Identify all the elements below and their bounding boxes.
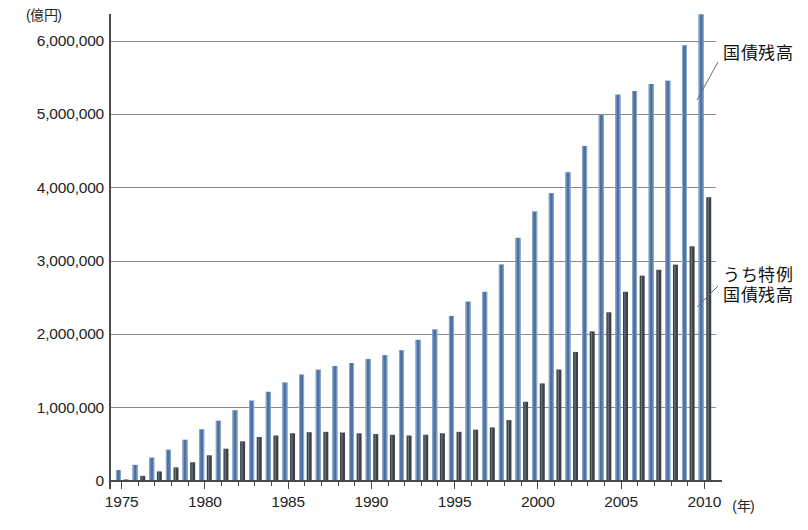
annotation-bond-total-text: 国債残高 [723,44,793,64]
x-tick-label-2005: 2005 [604,493,638,511]
bar-special-1977 [157,471,162,481]
y-tick-label-6000000: 6,000,000 [8,32,104,50]
x-tick-label-1980: 1980 [188,493,222,511]
annotation-bond-special: うち特例 国債残高 [723,266,793,306]
x-tick-label-1990: 1990 [355,493,389,511]
x-axis-unit-label: (年) [732,495,754,515]
y-tick-label-2000000: 2,000,000 [8,325,104,343]
x-tick-label-2000: 2000 [521,493,555,511]
y-tick-label-0: 0 [8,472,104,490]
y-tick-label-1000000: 1,000,000 [8,399,104,417]
x-tick-label-2010: 2010 [688,493,722,511]
annotation-bond-special-line2: 国債残高 [723,286,793,306]
y-tick-label-4000000: 4,000,000 [8,179,104,197]
x-tick-label-1975: 1975 [105,493,139,511]
annotation-bond-special-line1: うち特例 [723,266,793,286]
chart-container: (億円) 01,000,0002,000,0003,000,0004,000,0… [0,0,808,530]
bars-bond-total [116,14,704,481]
x-tick-label-1985: 1985 [271,493,305,511]
y-tick-label-5000000: 5,000,000 [8,105,104,123]
chart-plot-area [0,0,808,530]
y-axis-tick-labels: 01,000,0002,000,0003,000,0004,000,0005,0… [0,0,104,530]
annotation-bond-total: 国債残高 [723,44,793,64]
x-tick-label-1995: 1995 [438,493,472,511]
x-axis-ticks-group [122,481,705,489]
y-tick-label-3000000: 3,000,000 [8,252,104,270]
